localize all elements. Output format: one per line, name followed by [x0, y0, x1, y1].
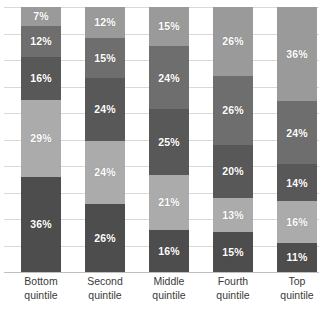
segment-value-label: 14% [286, 178, 308, 189]
bar-segment[interactable]: 12% [85, 7, 125, 38]
segment-value-label: 21% [158, 197, 180, 208]
bar-4[interactable]: 26%26%20%13%15% [213, 7, 253, 272]
bar-segment[interactable]: 13% [213, 198, 253, 232]
segment-value-label: 25% [158, 137, 180, 148]
bar-segment[interactable]: 24% [277, 101, 317, 164]
segment-value-label: 16% [30, 73, 52, 84]
bar-segment[interactable]: 26% [85, 204, 125, 272]
segment-value-label: 29% [30, 133, 52, 144]
segment-value-label: 16% [286, 217, 308, 228]
category-label-line1: Bottom [9, 274, 73, 288]
category-label-4: Fourthquintile [201, 274, 265, 302]
bar-1[interactable]: 7%12%16%29%36% [21, 7, 61, 272]
category-label-line1: Fourth [201, 274, 265, 288]
bars-layer: 7%12%16%29%36%12%15%24%24%26%15%24%25%21… [0, 7, 321, 272]
bar-segment[interactable]: 7% [21, 7, 61, 26]
bar-segment[interactable]: 25% [149, 109, 189, 175]
bar-segment[interactable]: 12% [21, 26, 61, 58]
segment-value-label: 24% [94, 104, 116, 115]
bar-segment[interactable]: 26% [213, 7, 253, 76]
bar-segment[interactable]: 20% [213, 145, 253, 198]
category-label-line1: Top [265, 274, 321, 288]
category-label-line2: quintile [265, 288, 321, 302]
category-label-2: Secondquintile [73, 274, 137, 302]
bar-segment[interactable]: 11% [277, 243, 317, 272]
bar-segment[interactable]: 14% [277, 164, 317, 201]
segment-value-label: 36% [30, 219, 52, 230]
bar-segment[interactable]: 16% [21, 57, 61, 99]
segment-value-label: 16% [158, 246, 180, 257]
bar-segment[interactable]: 21% [149, 175, 189, 230]
segment-value-label: 13% [222, 210, 244, 221]
segment-value-label: 11% [286, 252, 307, 263]
category-label-line2: quintile [9, 288, 73, 302]
segment-value-label: 36% [286, 49, 308, 60]
category-label-3: Middlequintile [137, 274, 201, 302]
bar-segment[interactable]: 29% [21, 100, 61, 177]
segment-value-label: 24% [158, 73, 180, 84]
bar-segment[interactable]: 36% [277, 7, 317, 101]
bar-segment[interactable]: 24% [85, 78, 125, 141]
bar-5[interactable]: 36%24%14%16%11% [277, 7, 317, 272]
segment-value-label: 26% [94, 233, 116, 244]
segment-value-label: 15% [222, 247, 244, 258]
gridline [4, 272, 319, 273]
plot-area: 7%12%16%29%36%12%15%24%24%26%15%24%25%21… [0, 7, 321, 272]
category-label-1: Bottomquintile [9, 274, 73, 302]
segment-value-label: 26% [222, 105, 244, 116]
bar-segment[interactable]: 15% [149, 7, 189, 46]
segment-value-label: 15% [94, 53, 116, 64]
bar-segment[interactable]: 15% [85, 38, 125, 77]
category-label-line1: Middle [137, 274, 201, 288]
category-label-line2: quintile [201, 288, 265, 302]
bar-segment[interactable]: 16% [149, 230, 189, 272]
category-axis: BottomquintileSecondquintileMiddlequinti… [0, 274, 321, 314]
category-label-line2: quintile [73, 288, 137, 302]
category-label-line1: Second [73, 274, 137, 288]
segment-value-label: 15% [158, 21, 180, 32]
segment-value-label: 24% [286, 128, 308, 139]
segment-value-label: 26% [222, 36, 244, 47]
bar-3[interactable]: 15%24%25%21%16% [149, 7, 189, 272]
bar-segment[interactable]: 24% [85, 141, 125, 204]
segment-value-label: 12% [94, 17, 116, 28]
stacked-bar-chart: 7%12%16%29%36%12%15%24%24%26%15%24%25%21… [0, 0, 321, 314]
bar-segment[interactable]: 26% [213, 76, 253, 145]
bar-2[interactable]: 12%15%24%24%26% [85, 7, 125, 272]
bar-segment[interactable]: 36% [21, 177, 61, 272]
category-label-5: Topquintile [265, 274, 321, 302]
bar-segment[interactable]: 24% [149, 46, 189, 109]
bar-segment[interactable]: 16% [277, 201, 317, 243]
segment-value-label: 7% [33, 11, 49, 22]
segment-value-label: 12% [30, 36, 52, 47]
segment-value-label: 24% [94, 167, 116, 178]
bar-segment[interactable]: 15% [213, 232, 253, 272]
segment-value-label: 20% [222, 166, 244, 177]
category-label-line2: quintile [137, 288, 201, 302]
